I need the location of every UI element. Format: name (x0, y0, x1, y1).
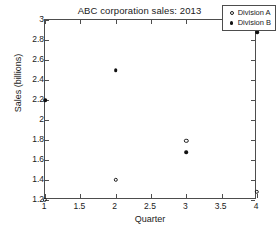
x-axis-tick (151, 194, 152, 198)
x-axis-tick (80, 20, 81, 24)
y-axis-tick-label: 2.6 (32, 54, 44, 64)
open-circle-icon (226, 11, 238, 15)
y-axis-tick (251, 80, 255, 81)
y-axis-tick (251, 140, 255, 141)
x-axis-tick-label: 2 (112, 201, 117, 211)
y-axis-tick (251, 120, 255, 121)
x-axis-tick (257, 194, 258, 198)
x-axis-tick (222, 194, 223, 198)
x-axis-tick (80, 194, 81, 198)
y-axis-tick (45, 40, 49, 41)
data-point (43, 98, 47, 102)
y-axis-tick (45, 160, 49, 161)
y-axis-tick-label: 1.8 (32, 134, 44, 144)
x-axis-tick-label: 3 (183, 201, 188, 211)
legend-item: Division B (226, 18, 271, 28)
x-axis-tick-label: 4 (254, 201, 259, 211)
data-point (184, 139, 188, 143)
y-axis-tick (251, 160, 255, 161)
x-axis-tick-label: 2.5 (144, 201, 156, 211)
y-axis-tick (251, 180, 255, 181)
x-axis-label: Quarter (44, 214, 256, 224)
chart-figure: ABC corporation sales: 2013 1.21.41.61.8… (0, 0, 279, 235)
x-axis-tick (186, 194, 187, 198)
filled-dot-icon (226, 21, 238, 24)
y-axis-tick (251, 60, 255, 61)
x-axis-tick (45, 20, 46, 24)
plot-area (44, 19, 256, 199)
x-axis-tick (151, 20, 152, 24)
legend-item-label: Division A (238, 8, 271, 18)
legend-item: Division A (226, 8, 271, 18)
y-axis-tick (45, 60, 49, 61)
x-axis-tick (116, 194, 117, 198)
legend-item-label: Division B (238, 18, 271, 28)
data-point (185, 150, 189, 154)
x-axis-tick (186, 20, 187, 24)
y-axis-tick (45, 80, 49, 81)
y-axis-tick-label: 2.4 (32, 74, 44, 84)
y-axis-tick (251, 40, 255, 41)
y-axis-tick-label: 1.4 (32, 174, 44, 184)
y-axis-tick (251, 100, 255, 101)
x-axis-tick-label: 1 (42, 201, 47, 211)
x-axis-tick-labels: 11.522.533.54 (44, 201, 256, 215)
data-point (113, 178, 117, 182)
y-axis-tick-label: 1.6 (32, 154, 44, 164)
y-axis-tick (45, 140, 49, 141)
x-axis-tick-label: 1.5 (73, 201, 85, 211)
x-axis-tick-label: 3.5 (215, 201, 227, 211)
data-point (114, 68, 118, 72)
chart-legend: Division ADivision B (222, 5, 276, 31)
y-axis-tick (45, 180, 49, 181)
plot-inner (45, 20, 255, 198)
y-axis-label: Sales (billions) (13, 0, 23, 173)
y-axis-tick (45, 120, 49, 121)
y-axis-tick-label: 2.8 (32, 34, 44, 44)
x-axis-tick (116, 20, 117, 24)
